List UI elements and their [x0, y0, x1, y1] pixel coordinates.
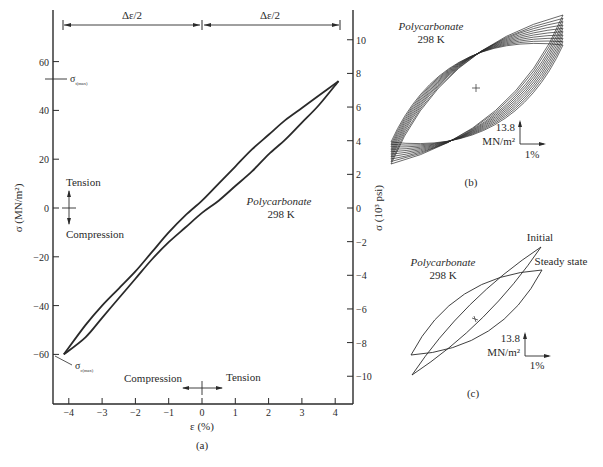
x-tick-label: 1 — [233, 407, 238, 418]
y-tick-label-right: 2 — [356, 169, 361, 180]
x-axis-label: ε (%) — [190, 420, 214, 433]
tension-horizontal-label: Tension — [226, 371, 261, 383]
scale-strain-b: 1% — [525, 148, 540, 160]
sigma-t-max-sub: t(max) — [75, 81, 87, 86]
y-tick-label-right: −6 — [356, 304, 367, 315]
y-tick-label-left: −40 — [33, 301, 49, 312]
x-tick-label: 3 — [299, 407, 304, 418]
figure: −4−3−2−101234 6040200−20−40−60 1086420−2… — [0, 0, 603, 467]
y-axis-label-left: σ (MN/m²) — [12, 183, 25, 232]
scale-bar-c — [523, 332, 551, 358]
y-tick-label-left: −60 — [33, 349, 49, 360]
loop-b — [391, 32, 563, 152]
delta-strain-right-label: Δε/2 — [260, 9, 280, 21]
material-label-b: Polycarbonate — [398, 20, 464, 32]
temperature-label-c: 298 K — [429, 269, 456, 281]
y-tick-label-right: 8 — [356, 68, 361, 79]
compression-vertical-label: Compression — [66, 228, 125, 240]
center-cross-b — [472, 84, 480, 92]
y-tick-label-right: 6 — [356, 102, 361, 113]
scale-strain-c: 1% — [530, 359, 545, 371]
panel-label-a: (a) — [196, 439, 209, 452]
scale-stress-unit-c: MN/m² — [487, 346, 520, 358]
x-tick-label: −4 — [63, 407, 74, 418]
y-ticks-left: 6040200−20−40−60 — [33, 57, 59, 361]
delta-strain-left-label: Δε/2 — [122, 9, 142, 21]
horizontal-sign-indicator — [182, 381, 223, 395]
y-tick-label-right: −8 — [356, 338, 367, 349]
hysteresis-loop-a — [64, 81, 339, 354]
y-tick-label-right: 4 — [356, 136, 361, 147]
series-label-steady-state: Steady state — [535, 255, 588, 267]
y-tick-label-left: 40 — [39, 105, 49, 116]
x-tick-label: 0 — [200, 407, 205, 418]
sigma-c-max-marker — [55, 356, 72, 365]
series-label-initial: Initial — [527, 231, 553, 243]
panel-b: Polycarbonate 298 K 13.8 MN/m² 1% (b) — [391, 15, 563, 189]
panel-c: Polycarbonate 298 K Initial Steady state… — [410, 231, 588, 400]
material-label-a: Polycarbonate — [246, 195, 312, 207]
temperature-label-b: 298 K — [417, 33, 444, 45]
loop-b — [391, 28, 563, 154]
material-label-c: Polycarbonate — [410, 256, 476, 268]
y-tick-label-left: 20 — [39, 154, 49, 165]
y-ticks-right: 1086420−2−4−6−8−10 — [347, 35, 372, 382]
scale-stress-b: 13.8 — [496, 121, 516, 133]
y-tick-label-left: 60 — [39, 57, 49, 68]
svg-text:σt(max): σt(max) — [70, 73, 88, 86]
x-ticks: −4−3−2−101234 — [63, 398, 337, 418]
loop-branch-1 — [64, 81, 339, 354]
temperature-label-a: 298 K — [267, 208, 294, 220]
scale-stress-unit-b: MN/m² — [482, 135, 515, 147]
tension-vertical-label: Tension — [66, 176, 101, 188]
center-cross-c — [472, 316, 478, 322]
compression-horizontal-label: Compression — [124, 372, 183, 384]
panel-label-c: (c) — [467, 387, 480, 400]
x-tick-label: −2 — [130, 407, 141, 418]
y-tick-label-right: 10 — [356, 35, 366, 46]
y-tick-label-left: −20 — [33, 252, 49, 263]
y-tick-label-right: 0 — [356, 203, 361, 214]
y-tick-label-left: 0 — [44, 203, 49, 214]
panel-a: −4−3−2−101234 6040200−20−40−60 1086420−2… — [12, 9, 385, 452]
scale-bar-b — [518, 120, 546, 146]
scale-stress-c: 13.8 — [501, 332, 521, 344]
x-tick-label: −3 — [97, 407, 108, 418]
loop-steady-state — [411, 270, 542, 355]
panel-label-b: (b) — [465, 176, 478, 189]
x-tick-label: −1 — [163, 407, 174, 418]
y-axis-label-right: σ (10³ psi) — [372, 185, 385, 231]
svg-text:σc(max): σc(max) — [75, 360, 94, 373]
y-tick-label-right: −4 — [356, 270, 367, 281]
y-tick-label-right: −2 — [356, 237, 367, 248]
x-tick-label: 2 — [266, 407, 271, 418]
vertical-sign-indicator — [62, 190, 76, 225]
x-tick-label: 4 — [333, 407, 338, 418]
sigma-c-max-sub: c(max) — [80, 368, 93, 373]
y-tick-label-right: −10 — [356, 371, 372, 382]
strain-range-arrows — [63, 20, 340, 30]
